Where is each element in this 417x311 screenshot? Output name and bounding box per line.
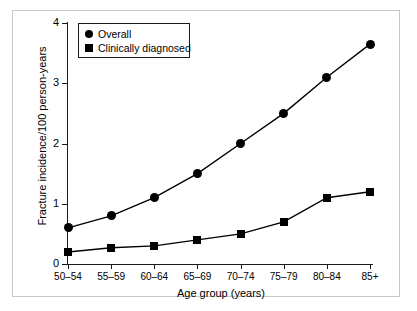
x-tick-mark [154,264,155,269]
square-marker-icon [85,44,93,52]
x-tick-mark [327,264,328,269]
data-point-marker [280,218,288,226]
x-tick-mark [111,264,112,269]
legend-item-overall: Overall [85,27,189,41]
x-tick-label: 75–79 [261,271,307,282]
x-tick-label: 70–74 [218,271,264,282]
y-tick-mark [62,144,68,145]
data-point-marker [64,248,72,256]
data-point-marker [366,188,374,196]
chart-figure: 01234 50–5455–5960–6465–6970–7475–7980–8… [0,0,417,311]
y-tick-label: 0 [39,258,59,269]
x-tick-mark [197,264,198,269]
data-point-marker [237,230,245,238]
data-point-marker [64,223,73,232]
x-axis-title: Age group (years) [68,287,374,299]
legend: Overall Clinically diagnosed [78,23,190,58]
data-point-marker [107,211,116,220]
data-point-marker [150,242,158,250]
x-tick-mark [370,264,371,269]
data-point-marker [366,40,375,49]
x-tick-label: 85+ [347,271,393,282]
x-tick-label: 55–59 [88,271,134,282]
x-tick-mark [284,264,285,269]
circle-marker-icon [85,30,93,38]
x-tick-mark [68,264,69,269]
y-tick-mark [62,204,68,205]
x-tick-label: 65–69 [174,271,220,282]
y-tick-mark [62,83,68,84]
legend-label-overall: Overall [98,27,131,41]
x-tick-mark [241,264,242,269]
data-point-marker [150,193,159,202]
data-point-marker [193,169,202,178]
data-point-marker [107,244,115,252]
legend-label-clinically-diagnosed: Clinically diagnosed [98,41,191,55]
data-point-marker [323,194,331,202]
legend-item-clinically-diagnosed: Clinically diagnosed [85,41,189,55]
x-tick-label: 80–84 [304,271,350,282]
data-point-marker [236,139,245,148]
x-tick-label: 50–54 [45,271,91,282]
y-tick-mark [62,23,68,24]
y-axis-title: Fracture incidence/100 person-years [36,21,48,251]
x-tick-label: 60–64 [131,271,177,282]
data-point-marker [193,236,201,244]
